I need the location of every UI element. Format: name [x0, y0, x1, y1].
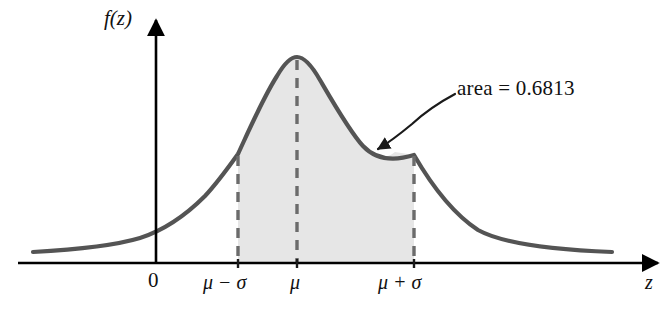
tick-label-mu-plus-sigma: μ + σ — [378, 272, 421, 292]
y-axis-label: f(z) — [104, 8, 132, 29]
area-annotation-label: area = 0.6813 — [457, 78, 575, 99]
tick-label-mu-minus-sigma: μ − σ — [203, 272, 246, 292]
origin-tick-label: 0 — [148, 270, 159, 291]
tick-label-mu: μ — [290, 272, 300, 292]
normal-distribution-figure: f(z) 0 μ − σ μ μ + σ z area = 0.6813 — [0, 0, 669, 313]
annotation-arrow-icon — [378, 94, 455, 149]
distribution-plot-svg — [0, 0, 669, 313]
x-axis-label: z — [645, 272, 653, 292]
